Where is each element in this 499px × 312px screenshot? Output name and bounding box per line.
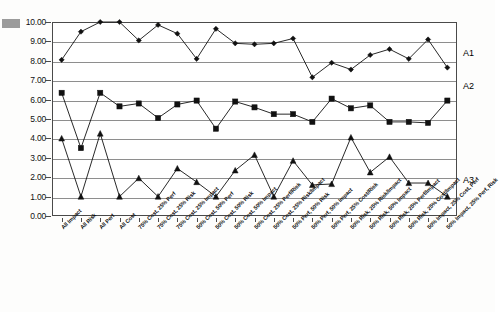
series-label-a1: A1 [463, 48, 474, 58]
data-point-a3 [290, 158, 296, 164]
data-point-a1 [98, 19, 103, 24]
x-tick-mark [390, 218, 391, 222]
data-point-a3 [97, 131, 103, 137]
data-point-a2 [310, 119, 315, 124]
data-point-a2 [329, 96, 334, 101]
data-point-a3 [387, 154, 393, 160]
data-point-a2 [233, 99, 238, 104]
series-label-a3: A3 [463, 175, 474, 185]
data-point-a2 [59, 90, 64, 95]
data-point-a2 [348, 106, 353, 111]
data-point-a1 [387, 47, 392, 52]
data-point-a2 [213, 126, 218, 131]
data-point-a2 [98, 90, 103, 95]
x-tick-mark [62, 218, 63, 222]
x-tick-mark [197, 218, 198, 222]
data-point-a2 [445, 98, 450, 103]
data-point-a2 [406, 119, 411, 124]
data-point-a2 [194, 98, 199, 103]
data-point-a1 [78, 29, 83, 34]
data-point-a2 [136, 101, 141, 106]
x-tick-mark [332, 218, 333, 222]
data-point-a3 [78, 194, 84, 200]
data-point-a3 [174, 165, 180, 171]
data-point-a3 [59, 135, 65, 141]
data-point-a1 [59, 57, 64, 62]
x-tick-mark [255, 218, 256, 222]
data-point-a2 [117, 104, 122, 109]
data-point-a1 [445, 65, 450, 70]
data-point-a3 [348, 134, 354, 140]
x-axis: All ImpactAll RiskAll PerfAll Cost75% Co… [0, 218, 495, 312]
data-point-a1 [252, 42, 257, 47]
data-point-a3 [194, 179, 200, 185]
data-point-a1 [271, 41, 276, 46]
data-point-a3 [136, 175, 142, 181]
data-point-a2 [368, 103, 373, 108]
data-point-a1 [290, 36, 295, 41]
data-point-a2 [175, 102, 180, 107]
data-point-a2 [387, 119, 392, 124]
data-point-a2 [78, 146, 83, 151]
data-point-a2 [271, 112, 276, 117]
data-point-a2 [155, 115, 160, 120]
data-point-a2 [290, 112, 295, 117]
data-point-a3 [252, 152, 258, 158]
x-tick-mark [120, 218, 121, 222]
data-point-a2 [425, 120, 430, 125]
data-point-a2 [252, 105, 257, 110]
series-label-a2: A2 [463, 81, 474, 91]
